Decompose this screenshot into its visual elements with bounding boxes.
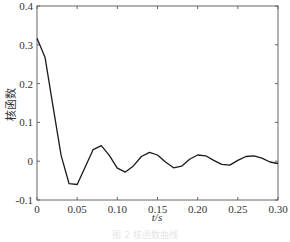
tick-label: 0.4 — [19, 0, 33, 12]
x-axis-title: t/s — [152, 211, 162, 223]
tick-label: 0.1 — [19, 116, 33, 128]
tick-label: 0.30 — [268, 203, 288, 215]
tick-label: 0.2 — [19, 78, 33, 90]
tick-label: 0.20 — [188, 203, 208, 215]
tick-label: 0.10 — [108, 203, 128, 215]
figure-caption: 图 2 核函数曲线 — [0, 228, 290, 241]
axis-ticks — [37, 6, 278, 200]
tick-label: 0 — [34, 203, 40, 215]
tick-label: 0.05 — [68, 203, 88, 215]
tick-label: 0.25 — [228, 203, 248, 215]
tick-label: -0.1 — [16, 194, 33, 206]
kernel-function-line — [37, 38, 278, 184]
tick-label: 0.3 — [19, 39, 33, 51]
tick-label: 0 — [28, 155, 34, 167]
kernel-function-chart: 00.050.100.150.200.250.30-0.100.10.20.30… — [0, 0, 290, 242]
plot-frame — [37, 6, 278, 200]
tick-labels: 00.050.100.150.200.250.30-0.100.10.20.30… — [16, 0, 289, 215]
y-axis-title: 核函数 — [4, 88, 17, 121]
